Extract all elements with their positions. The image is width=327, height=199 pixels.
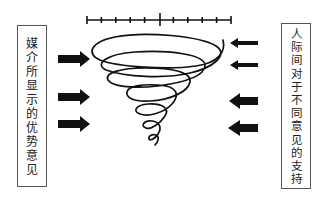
label-char: 势	[26, 135, 38, 149]
label-char: 对	[291, 68, 302, 81]
diagram-graphics	[0, 0, 327, 199]
label-char: 间	[291, 54, 302, 67]
spiral	[92, 34, 224, 145]
arrow-right-icon	[58, 116, 90, 132]
label-char: 见	[291, 134, 302, 147]
interpersonal-support-box: 人 际 间 对 于 不 同 意 见 的 支 持	[281, 23, 311, 189]
arrow-left-icon	[229, 93, 258, 109]
arrow-left-icon	[228, 120, 258, 136]
label-char: 意	[291, 120, 302, 133]
label-char: 见	[26, 163, 38, 177]
label-char: 显	[26, 79, 38, 93]
label-char: 持	[291, 173, 302, 186]
arrow-right-icon	[58, 51, 90, 67]
label-char: 媒	[26, 37, 38, 51]
label-char: 示	[26, 93, 38, 107]
spiral-of-silence-diagram: 媒 介 所 显 示 的 优 势 意 见 人 际 间 对 于 不 同 意 见 的 …	[0, 0, 327, 199]
arrow-right-icon	[58, 89, 90, 105]
left-arrows	[58, 51, 90, 132]
arrow-left-icon	[230, 60, 258, 70]
label-char: 意	[26, 149, 38, 163]
scale-bar	[87, 13, 231, 26]
arrow-left-icon	[230, 38, 258, 48]
label-char: 的	[26, 107, 38, 121]
label-char: 优	[26, 121, 38, 135]
label-char: 介	[26, 51, 38, 65]
right-arrows	[228, 38, 258, 136]
label-char: 所	[26, 65, 38, 79]
media-dominant-opinion-box: 媒 介 所 显 示 的 优 势 意 见	[17, 25, 47, 187]
